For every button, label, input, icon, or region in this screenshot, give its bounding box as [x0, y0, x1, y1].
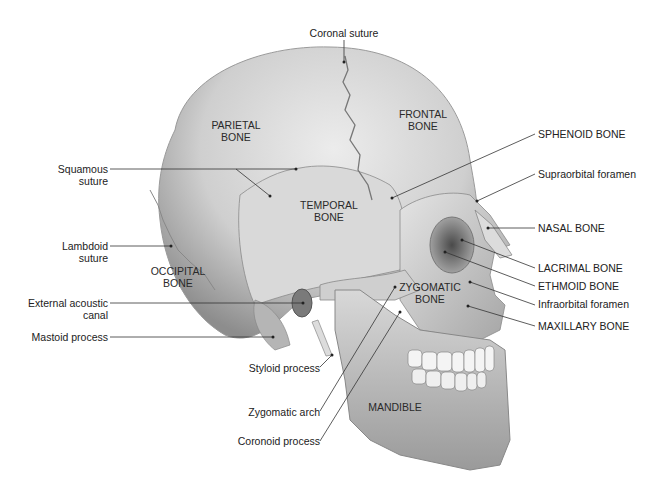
sphenoid-text: SPHENOID BONE: [538, 128, 626, 140]
label-parietal-bone: PARIETAL BONE: [208, 119, 264, 143]
squamous-text-1: Squamous: [20, 163, 108, 175]
callout-coronoid-process: Coronoid process: [210, 435, 320, 447]
zygomatic-line-1: ZYGOMATIC: [397, 281, 463, 293]
maxillary-text: MAXILLARY BONE: [538, 320, 629, 332]
coronal-suture-text: Coronal suture: [296, 27, 392, 39]
label-mandible: MANDIBLE: [360, 401, 430, 413]
ext-acoustic-text-1: External acoustic: [10, 297, 108, 309]
callout-sphenoid-bone: SPHENOID BONE: [538, 128, 626, 140]
zygomatic-line-2: BONE: [397, 293, 463, 305]
styloid: [312, 320, 332, 356]
ethmoid-text: ETHMOID BONE: [538, 280, 619, 292]
frontal-line-2: BONE: [395, 120, 451, 132]
parietal-line-2: BONE: [208, 131, 264, 143]
mastoid-text: Mastoid process: [10, 331, 108, 343]
callout-ethmoid-bone: ETHMOID BONE: [538, 280, 619, 292]
occipital-line-2: BONE: [148, 277, 208, 289]
lambdoid-text-2: suture: [20, 252, 108, 264]
zygomatic-arch-text: Zygomatic arch: [220, 406, 320, 418]
callout-zygomatic-arch: Zygomatic arch: [220, 406, 320, 418]
label-temporal-bone: TEMPORAL BONE: [297, 199, 361, 223]
callout-maxillary-bone: MAXILLARY BONE: [538, 320, 629, 332]
squamous-text-2: suture: [20, 175, 108, 187]
label-frontal-bone: FRONTAL BONE: [395, 108, 451, 132]
temporal-line-2: BONE: [297, 211, 361, 223]
mandible-line-1: MANDIBLE: [360, 401, 430, 413]
lambdoid-text-1: Lambdoid: [20, 240, 108, 252]
parietal-line-1: PARIETAL: [208, 119, 264, 131]
lacrimal-text: LACRIMAL BONE: [538, 262, 623, 274]
nasal-text: NASAL BONE: [538, 222, 605, 234]
callout-lacrimal-bone: LACRIMAL BONE: [538, 262, 623, 274]
callout-styloid-process: Styloid process: [220, 362, 320, 374]
callout-supraorbital-foramen: Supraorbital foramen: [538, 168, 636, 180]
styloid-text: Styloid process: [220, 362, 320, 374]
callout-infraorbital-foramen: Infraorbital foramen: [538, 298, 629, 310]
temporal-line-1: TEMPORAL: [297, 199, 361, 211]
callout-coronal-suture: Coronal suture: [296, 27, 392, 39]
occipital-line-1: OCCIPITAL: [148, 265, 208, 277]
label-zygomatic-bone: ZYGOMATIC BONE: [397, 281, 463, 305]
ext-acoustic-text-2: canal: [10, 309, 108, 321]
callout-external-acoustic-canal: External acoustic canal: [10, 297, 108, 321]
coronoid-text: Coronoid process: [210, 435, 320, 447]
orbit: [430, 217, 474, 273]
infraorbital-text: Infraorbital foramen: [538, 298, 629, 310]
callout-lambdoid-suture: Lambdoid suture: [20, 240, 108, 264]
callout-squamous-suture: Squamous suture: [20, 163, 108, 187]
frontal-line-1: FRONTAL: [395, 108, 451, 120]
supraorbital-text: Supraorbital foramen: [538, 168, 636, 180]
callout-nasal-bone: NASAL BONE: [538, 222, 605, 234]
label-occipital-bone: OCCIPITAL BONE: [148, 265, 208, 289]
callout-mastoid-process: Mastoid process: [10, 331, 108, 343]
